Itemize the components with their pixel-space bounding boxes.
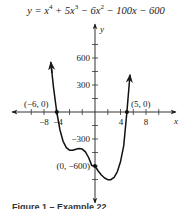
x-tick-label: −8 bbox=[39, 117, 49, 127]
plot-area: −8 −4 4 8 600 300 −300 x y (−6, 0) (5, 0… bbox=[0, 0, 192, 209]
y-tick-label: 300 bbox=[77, 80, 91, 90]
left-branch-arrow bbox=[51, 62, 52, 73]
point-y-intercept bbox=[93, 164, 97, 168]
point-right-root bbox=[125, 110, 129, 114]
annotation-right-root: (5, 0) bbox=[131, 99, 151, 109]
x-tick-label: 4 bbox=[119, 117, 124, 127]
point-left-root bbox=[55, 110, 59, 114]
y-tick-label: 600 bbox=[77, 53, 91, 63]
x-tick-label: 8 bbox=[144, 117, 149, 127]
annotation-left-root: (−6, 0) bbox=[24, 99, 49, 109]
annotation-y-intercept: (0, −600) bbox=[56, 161, 90, 171]
x-axis-label: x bbox=[173, 116, 178, 126]
figure-caption: Figure 1 – Example 22 bbox=[12, 202, 107, 209]
y-axis-label: y bbox=[99, 24, 104, 34]
y-tick-label: −300 bbox=[71, 134, 90, 144]
